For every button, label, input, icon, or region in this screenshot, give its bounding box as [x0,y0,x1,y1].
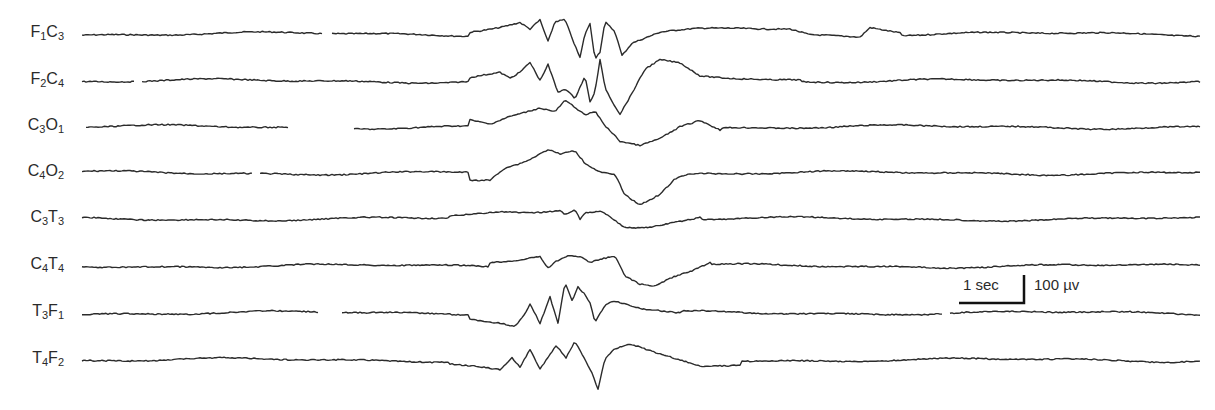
scale-time-label: 1 sec [963,276,999,293]
trace-f2c4 [82,59,1200,114]
trace-c4t4 [82,256,1200,287]
trace-c3t3 [82,210,1200,228]
trace-c4o2 [82,150,1200,204]
eeg-figure: F1C3F2C4C3O1C4O2C3T3C4T4T3F1T4F2 1 sec 1… [0,0,1215,410]
scale-amplitude-label: 100 µv [1034,276,1079,293]
trace-f1c3 [82,19,1200,58]
trace-t4f2 [82,343,1200,390]
trace-t3f1 [82,285,1200,326]
eeg-traces [0,0,1215,410]
trace-c3o1 [86,101,1200,146]
